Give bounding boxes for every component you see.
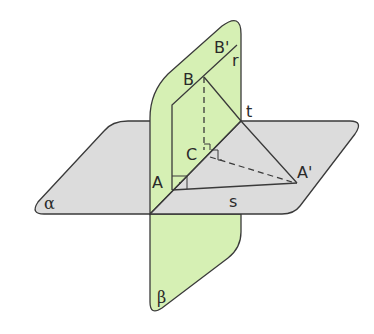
- geometry-diagram: B' r B t C A A' s α β: [0, 0, 374, 334]
- label-alpha: α: [44, 194, 55, 213]
- label-c: C: [186, 145, 197, 164]
- label-b: B: [183, 70, 194, 89]
- label-a: A: [152, 173, 163, 192]
- right-angle-dot-a: [179, 182, 181, 184]
- label-r: r: [232, 51, 239, 70]
- label-s: s: [229, 192, 237, 211]
- label-beta: β: [157, 288, 166, 307]
- label-t: t: [246, 102, 252, 121]
- label-a-prime: A': [297, 163, 312, 182]
- label-b-prime: B': [214, 38, 229, 57]
